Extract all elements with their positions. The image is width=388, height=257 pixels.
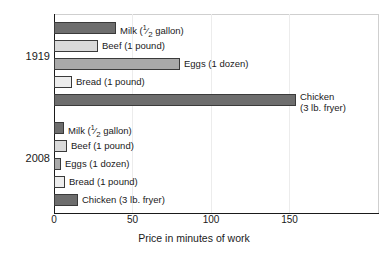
- x-axis-title: Price in minutes of work: [0, 232, 388, 244]
- bar-2008-eggs[interactable]: [54, 158, 61, 170]
- group-label-1919: 1919: [6, 50, 50, 62]
- xtick-label-50: 50: [127, 214, 138, 225]
- bar-label-1919-chicken: Chicken(3 lb. fryer): [300, 91, 346, 113]
- bar-2008-bread[interactable]: [54, 176, 65, 188]
- bar-label-2008-eggs: Eggs (1 dozen): [65, 158, 129, 169]
- bar-label-1919-beef: Beef (1 pound): [102, 40, 165, 51]
- bar-1919-milk[interactable]: [54, 22, 116, 34]
- bar-label-2008-bread: Bread (1 pound): [69, 176, 138, 187]
- bar-label-1919-milk: Milk (1⁄2 gallon): [120, 22, 184, 40]
- bar-1919-chicken[interactable]: [54, 94, 296, 106]
- bar-1919-bread[interactable]: [54, 76, 72, 88]
- xtick-label-150: 150: [281, 214, 298, 225]
- bar-1919-eggs[interactable]: [54, 58, 180, 70]
- xtick-label-0: 0: [51, 214, 57, 225]
- bar-2008-beef[interactable]: [54, 140, 67, 152]
- group-label-2008: 2008: [6, 152, 50, 164]
- bar-2008-milk[interactable]: [54, 122, 64, 134]
- bar-1919-beef[interactable]: [54, 40, 98, 52]
- bar-label-1919-eggs: Eggs (1 dozen): [184, 58, 248, 69]
- bar-chart: 1919 Milk (1⁄2 gallon) Beef (1 pound) Eg…: [0, 0, 388, 257]
- bar-label-1919-bread: Bread (1 pound): [76, 76, 145, 87]
- xtick-label-100: 100: [203, 214, 220, 225]
- bar-label-2008-chicken: Chicken (3 lb. fryer): [82, 194, 165, 205]
- bar-label-2008-beef: Beef (1 pound): [71, 140, 134, 151]
- bar-2008-chicken[interactable]: [54, 194, 78, 206]
- bar-label-2008-milk: Milk (1⁄2 gallon): [68, 122, 132, 140]
